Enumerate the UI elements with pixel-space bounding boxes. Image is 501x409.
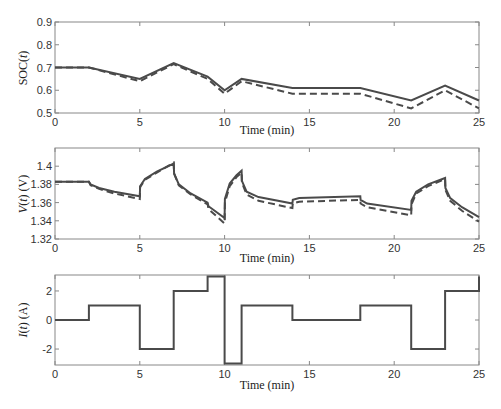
y-tick-label: 2 xyxy=(46,285,52,297)
soc-subplot: 05101520250.50.60.70.80.9 xyxy=(37,16,485,128)
y-tick-label: 0.8 xyxy=(37,39,52,51)
y-tick-label: 1.4 xyxy=(37,160,52,172)
axes-frame xyxy=(55,275,479,365)
x-tick-label: 25 xyxy=(473,242,485,254)
x-tick-label: 10 xyxy=(218,242,230,254)
y-tick-label: 1.34 xyxy=(31,215,52,227)
x-tick-label: 15 xyxy=(303,116,315,128)
y-tick-label: 0.7 xyxy=(37,62,52,74)
current-subplot: 0510152025-202 xyxy=(42,275,485,380)
voltage-ylabel: V(t) (V) xyxy=(16,175,30,213)
current-xlabel: Time (min) xyxy=(240,378,295,392)
y-tick-label: 0.9 xyxy=(37,16,52,28)
soc-ylabel: SOC(t) xyxy=(16,51,30,86)
y-tick-label: 0.6 xyxy=(37,84,52,96)
x-tick-label: 15 xyxy=(303,368,315,380)
x-tick-label: 25 xyxy=(473,368,485,380)
x-tick-label: 25 xyxy=(473,116,485,128)
x-tick-label: 15 xyxy=(303,242,315,254)
soc-xlabel: Time (min) xyxy=(240,123,295,137)
current-ylabel: I(t) (A) xyxy=(16,302,30,338)
x-tick-label: 0 xyxy=(52,116,58,128)
y-tick-label: 0 xyxy=(46,314,52,326)
y-tick-label: 1.32 xyxy=(31,233,52,245)
voltage-xlabel: Time (min) xyxy=(240,251,295,265)
x-tick-label: 0 xyxy=(52,368,58,380)
x-tick-label: 10 xyxy=(218,368,230,380)
x-tick-label: 5 xyxy=(137,116,143,128)
x-tick-label: 5 xyxy=(137,368,143,380)
x-tick-label: 20 xyxy=(388,242,400,254)
y-tick-label: 1.36 xyxy=(31,197,52,209)
y-tick-label: -2 xyxy=(42,343,52,355)
voltage-subplot: 05101520251.321.341.361.381.4 xyxy=(31,148,486,254)
x-tick-label: 10 xyxy=(218,116,230,128)
y-tick-label: 0.5 xyxy=(37,107,52,119)
x-tick-label: 0 xyxy=(52,242,58,254)
x-tick-label: 20 xyxy=(388,116,400,128)
x-tick-label: 20 xyxy=(388,368,400,380)
y-tick-label: 1.38 xyxy=(31,178,52,190)
x-tick-label: 5 xyxy=(137,242,143,254)
figure: 05101520250.50.60.70.80.9 05101520251.32… xyxy=(0,0,501,409)
